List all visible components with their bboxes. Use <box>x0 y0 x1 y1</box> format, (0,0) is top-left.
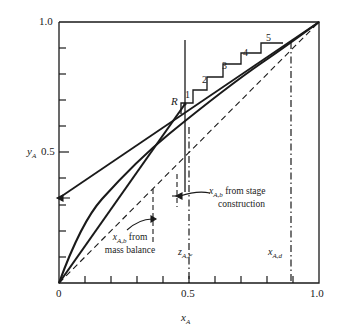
stage-construction-line2: construction <box>218 199 265 210</box>
stage-construction-line1: xA,b from stage <box>209 186 266 196</box>
x-axis-label: xA <box>181 312 190 326</box>
x-tick-label-0: 0 <box>56 288 62 299</box>
plot-canvas <box>0 0 339 335</box>
stage-construction-leader <box>172 192 210 199</box>
y-axis-ticks <box>59 48 69 257</box>
stage-number-4: 4 <box>243 48 248 58</box>
mass-balance-annotation: xA,b from mass balance <box>78 232 182 256</box>
stage-construction-annotation: xA,b from stage construction <box>209 186 321 210</box>
y-axis-label: yA <box>27 146 36 160</box>
stage-staircase <box>181 43 283 114</box>
mass-balance-line1: xA,b from <box>113 232 148 242</box>
mass-balance-leader <box>127 216 156 230</box>
mass-balance-line2: mass balance <box>105 245 155 255</box>
stage-number-3: 3 <box>222 61 227 71</box>
y-tick-label-1: 1.0 <box>39 16 53 27</box>
x-tick-label-05: 0.5 <box>181 288 195 299</box>
y-tick-label-05: 0.5 <box>41 146 55 157</box>
x-tick-label-1: 1.0 <box>310 288 324 299</box>
point-R-label: R <box>171 96 178 107</box>
stage-number-2: 2 <box>202 75 207 85</box>
stage-number-5: 5 <box>266 33 271 43</box>
mccabe-thiele-figure: yA xA 1.0 0.5 0 0.5 1.0 R 1 2 3 4 5 zA,F… <box>0 0 339 335</box>
distillate-composition-label: xA,d <box>268 247 282 260</box>
point-R-marker <box>183 102 186 105</box>
stage-number-1: 1 <box>185 90 190 100</box>
stripping-operating-line <box>59 104 185 283</box>
